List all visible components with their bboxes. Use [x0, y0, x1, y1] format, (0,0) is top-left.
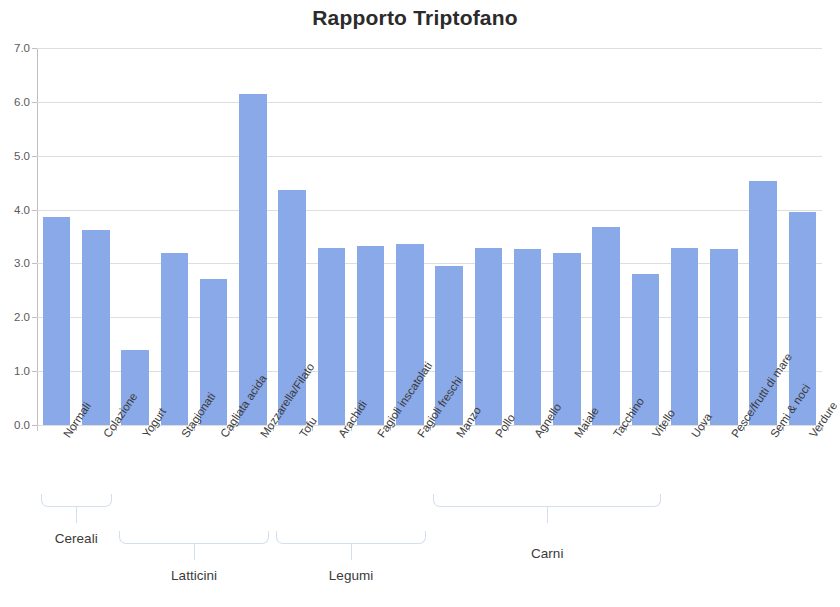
bar — [710, 249, 737, 425]
group-bracket — [119, 531, 268, 544]
y-tick-label: 7.0 — [0, 42, 30, 54]
bar — [161, 253, 188, 425]
x-tick-mark — [37, 425, 38, 431]
bar — [357, 246, 384, 425]
gridline — [37, 317, 822, 318]
gridline — [37, 48, 822, 49]
chart-title: Rapporto Triptofano — [0, 6, 830, 30]
bar — [82, 230, 109, 426]
y-tick-label: 2.0 — [0, 311, 30, 323]
y-tick-label: 6.0 — [0, 96, 30, 108]
gridline — [37, 210, 822, 211]
gridline — [37, 156, 822, 157]
bar — [318, 248, 345, 425]
group-bracket-stem — [351, 544, 352, 560]
bar — [553, 253, 580, 425]
group-bracket-stem — [76, 507, 77, 523]
group-bracket — [276, 531, 425, 544]
bar — [43, 217, 70, 425]
group-label: Cereali — [55, 531, 98, 546]
group-label: Carni — [531, 546, 563, 561]
group-bracket — [433, 494, 661, 507]
gridline — [37, 263, 822, 264]
bar — [475, 248, 502, 425]
bar — [592, 227, 619, 425]
bar — [671, 248, 698, 425]
bar — [514, 249, 541, 425]
group-bracket-stem — [194, 544, 195, 560]
y-tick-label: 5.0 — [0, 150, 30, 162]
group-bracket-stem — [547, 507, 548, 523]
y-tick-label: 1.0 — [0, 365, 30, 377]
group-bracket — [41, 494, 112, 507]
y-tick-label: 4.0 — [0, 204, 30, 216]
group-label: Latticini — [171, 568, 217, 583]
y-tick-label: 3.0 — [0, 257, 30, 269]
gridline — [37, 102, 822, 103]
group-label: Legumi — [329, 568, 373, 583]
y-tick-label: 0.0 — [0, 419, 30, 431]
